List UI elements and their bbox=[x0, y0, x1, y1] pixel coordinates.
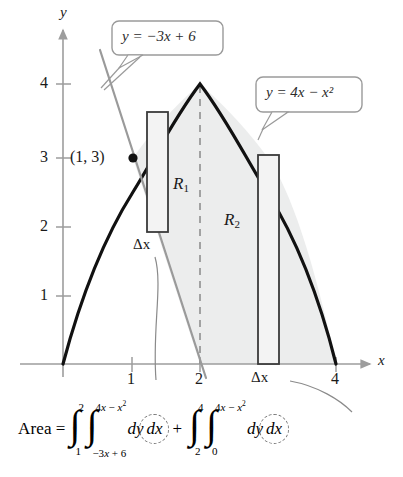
term2-inner-lower-limit: 0 bbox=[212, 445, 218, 457]
parabola-callout-label: y = 4x − x² bbox=[266, 84, 333, 101]
x-tick-label-1: 1 bbox=[127, 370, 135, 388]
term1-outer-upper-limit: 2 bbox=[78, 401, 84, 413]
intersection-point-label: (1, 3) bbox=[70, 148, 105, 166]
term1-inner-integral: ∫ 4x − x2 −3x + 6 bbox=[86, 403, 97, 455]
equation-area-word: Area bbox=[18, 419, 52, 439]
sample-rectangle-r2 bbox=[258, 155, 279, 364]
term1-inner-upper-limit: 4x − x2 bbox=[95, 399, 126, 413]
sample-rectangle-r1 bbox=[147, 112, 168, 232]
area-integral-equation: Area = ∫ 2 1 ∫ 4x − x2 −3x + 6 dy dx + ∫… bbox=[18, 398, 398, 460]
region-label-r2-base: R bbox=[224, 210, 234, 229]
term1-inner-lower-limit: −3x + 6 bbox=[92, 447, 126, 459]
line-callout-label: y = −3x + 6 bbox=[122, 28, 196, 45]
term1-dx-circled: dx bbox=[143, 419, 165, 439]
x-axis-label: x bbox=[378, 352, 385, 369]
intersection-point-marker bbox=[128, 153, 137, 162]
region-label-r1: R1 bbox=[173, 174, 189, 194]
equation-equals-sign: = bbox=[56, 419, 66, 439]
delta-x-label-2: Δx bbox=[251, 369, 268, 386]
term2-inner-upper-limit: 4x − x2 bbox=[215, 399, 246, 413]
y-tick-label-3: 3 bbox=[40, 148, 48, 166]
region-label-r1-sub: 1 bbox=[183, 182, 189, 194]
term2-outer-integral: ∫ 4 2 bbox=[189, 403, 200, 455]
term2-outer-upper-limit: 4 bbox=[198, 401, 204, 413]
delta-x-leader-1 bbox=[155, 257, 158, 380]
region-label-r1-base: R bbox=[173, 174, 183, 193]
x-tick-label-4: 4 bbox=[331, 370, 339, 388]
term2-dx: dx bbox=[266, 419, 282, 438]
y-axis-label: y bbox=[60, 4, 67, 21]
y-tick-label-1: 1 bbox=[40, 286, 48, 304]
y-tick-label-2: 2 bbox=[40, 217, 48, 235]
delta-x-label-1: Δx bbox=[133, 236, 150, 253]
y-tick-label-4: 4 bbox=[40, 74, 48, 92]
term1-outer-integral: ∫ 2 1 bbox=[69, 403, 80, 455]
term1-dx: dx bbox=[146, 419, 162, 438]
x-tick-label-2: 2 bbox=[195, 370, 203, 388]
term1-dy: dy bbox=[127, 419, 143, 439]
term2-outer-lower-limit: 2 bbox=[195, 445, 201, 457]
term2-inner-integral: ∫ 4x − x2 0 bbox=[206, 403, 217, 455]
equation-plus-sign: + bbox=[172, 419, 182, 439]
term1-outer-lower-limit: 1 bbox=[75, 445, 81, 457]
term2-dx-circled: dx bbox=[263, 419, 285, 439]
region-label-r2: R2 bbox=[224, 210, 240, 230]
term2-dy: dy bbox=[247, 419, 263, 439]
region-label-r2-sub: 2 bbox=[234, 218, 240, 230]
